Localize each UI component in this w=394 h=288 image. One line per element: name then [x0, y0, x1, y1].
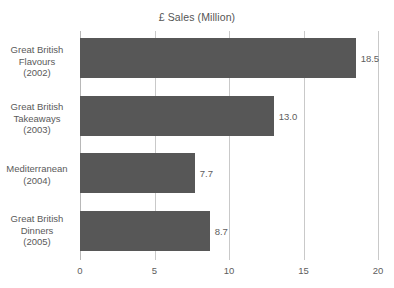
plot-area: 18.5 13.0 7.7 8.7	[80, 31, 378, 260]
category-label-line: Great British	[0, 101, 74, 113]
category-label-line: (2005)	[0, 236, 74, 248]
category-label-line: (2002)	[0, 67, 74, 79]
bar-row: 8.7	[80, 211, 378, 251]
xtick-label-4: 20	[373, 265, 384, 276]
category-label-line: Great British	[0, 213, 74, 225]
bar-1[interactable]	[80, 96, 274, 136]
category-label-3: Great British Dinners (2005)	[0, 213, 74, 248]
bar-row: 13.0	[80, 96, 378, 136]
category-label-line: Mediterranean	[0, 163, 74, 175]
xtick-label-0: 0	[77, 265, 82, 276]
bar-2[interactable]	[80, 153, 195, 193]
bar-value-0: 18.5	[356, 53, 380, 64]
bar-value-2: 7.7	[195, 168, 213, 179]
bar-0[interactable]	[80, 38, 356, 78]
bar-value-1: 13.0	[274, 111, 298, 122]
xtick-label-2: 10	[224, 265, 235, 276]
category-label-line: (2003)	[0, 124, 74, 136]
category-label-line: Flavours	[0, 56, 74, 68]
chart-title: £ Sales (Million)	[0, 11, 394, 23]
category-label-line: Takeaways	[0, 113, 74, 125]
xtick-label-3: 15	[298, 265, 309, 276]
xtick-label-1: 5	[152, 265, 157, 276]
category-label-line: (2004)	[0, 175, 74, 187]
category-label-line: Dinners	[0, 225, 74, 237]
bar-row: 18.5	[80, 38, 378, 78]
bar-value-3: 8.7	[210, 226, 228, 237]
category-label-0: Great British Flavours (2002)	[0, 44, 74, 79]
category-label-line: Great British	[0, 44, 74, 56]
gridline-20	[378, 31, 379, 260]
bar-3[interactable]	[80, 211, 210, 251]
category-label-1: Great British Takeaways (2003)	[0, 101, 74, 136]
category-label-2: Mediterranean (2004)	[0, 163, 74, 186]
bar-chart: £ Sales (Million) Great British Flavours…	[0, 0, 394, 288]
bar-row: 7.7	[80, 153, 378, 193]
